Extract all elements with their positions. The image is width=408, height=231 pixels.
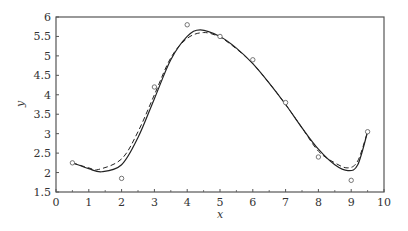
dashed-fit-line <box>72 33 367 170</box>
data-point <box>119 176 123 180</box>
x-tick-label: 0 <box>53 196 60 209</box>
y-tick-label: 4 <box>44 89 51 102</box>
x-tick-label: 8 <box>315 196 322 209</box>
y-tick-label: 3 <box>44 128 51 141</box>
data-point <box>349 178 353 182</box>
x-tick-label: 10 <box>377 196 391 209</box>
chart: 012345678910 1.522.533.544.555.56 x y <box>0 0 408 231</box>
y-tick-label: 1.5 <box>34 186 52 199</box>
data-point <box>316 155 320 159</box>
data-point <box>283 100 287 104</box>
y-tick-label: 2 <box>44 167 51 180</box>
y-tick-label: 5 <box>44 50 51 63</box>
x-tick-label: 9 <box>348 196 355 209</box>
x-tick-label: 6 <box>249 196 256 209</box>
y-axis-title: y <box>14 100 27 108</box>
x-axis-title: x <box>217 208 224 221</box>
y-tick-label: 5.5 <box>34 30 52 43</box>
data-point <box>251 58 255 62</box>
x-tick-label: 4 <box>184 196 191 209</box>
data-point <box>365 130 369 134</box>
y-tick-label: 2.5 <box>34 147 52 160</box>
data-point-markers <box>70 23 370 183</box>
plot-frame <box>56 17 384 192</box>
x-tick-label: 7 <box>282 196 289 209</box>
y-tick-label: 3.5 <box>34 108 52 121</box>
plot-border <box>56 17 384 192</box>
y-tick-label: 4.5 <box>34 69 52 82</box>
x-tick-label: 3 <box>151 196 158 209</box>
data-point <box>218 34 222 38</box>
data-point <box>70 161 74 165</box>
data-point <box>185 23 189 27</box>
solid-fit-line <box>72 30 367 172</box>
x-tick-label: 1 <box>85 196 92 209</box>
y-tick-label: 6 <box>44 11 51 24</box>
y-axis-ticks: 1.522.533.544.555.56 <box>34 11 60 199</box>
x-tick-label: 2 <box>118 196 125 209</box>
data-point <box>152 85 156 89</box>
